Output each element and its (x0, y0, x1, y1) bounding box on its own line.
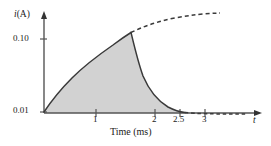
rise-curve-dashed-continuation (131, 13, 220, 33)
x-tick-label-3: 3 (202, 114, 207, 124)
x-tick-label-2: 2.5 (173, 114, 184, 124)
chart-canvas (0, 0, 271, 146)
y-tick-label-0: 0.10 (13, 33, 29, 43)
x-tick-label-1: 2 (152, 114, 157, 124)
x-tick-label-0: 1 (93, 114, 98, 124)
y-axis-title: i(A) (14, 9, 30, 19)
figure-current-vs-time: i(A) 0.10 0.01 1 2 2.5 3 t Time (ms) (0, 0, 271, 146)
y-tick-label-1: 0.01 (13, 105, 29, 115)
y-axis-arrowhead (41, 11, 47, 19)
x-axis-symbol: t (253, 115, 256, 125)
x-axis-title: Time (ms) (110, 126, 152, 137)
y-axis-unit: (A) (17, 9, 30, 19)
